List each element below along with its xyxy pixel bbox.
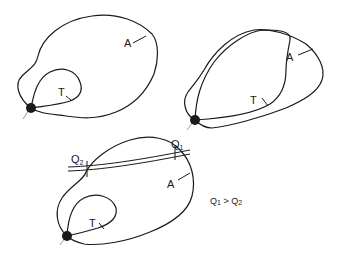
outer-loop-A: [18, 15, 158, 118]
outer-loop-A: [185, 30, 323, 128]
A-tick: [178, 173, 190, 180]
label-Q2: Q2: [71, 153, 84, 166]
panel-2: A T: [185, 30, 323, 130]
T-tick: [262, 98, 268, 106]
label-T: T: [250, 94, 257, 106]
T-tick: [66, 96, 72, 101]
inner-loop-T: [31, 69, 81, 108]
outlet-node: [62, 231, 72, 241]
panel-1: A T: [18, 15, 158, 119]
outlet-node: [190, 115, 200, 125]
panel-3: A T Q2 Q1: [57, 137, 193, 245]
diagram-canvas: A T A T A T Q2 Q1 Q1 > Q2: [0, 0, 338, 262]
outlet-node: [26, 103, 36, 113]
label-Q1: Q1: [171, 138, 184, 151]
inner-loop-T: [195, 30, 290, 120]
A-tick: [133, 36, 146, 43]
inner-loop-T: [67, 195, 116, 236]
river-line-2: [68, 154, 190, 171]
label-A: A: [167, 178, 175, 190]
A-tick: [298, 49, 313, 55]
flow-condition: Q1 > Q2: [210, 196, 242, 206]
label-A: A: [124, 37, 132, 49]
label-T: T: [89, 217, 96, 229]
label-T: T: [58, 86, 65, 98]
label-A: A: [286, 51, 294, 63]
